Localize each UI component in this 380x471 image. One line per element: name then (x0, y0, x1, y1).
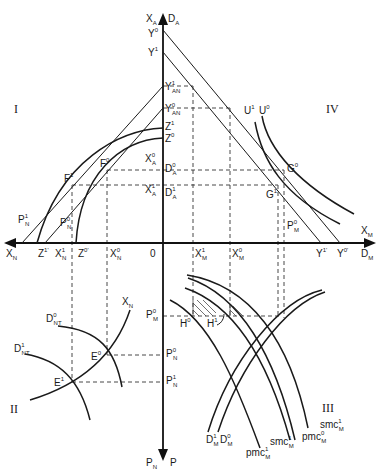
svg-text:G1: G1 (266, 188, 278, 200)
svg-text:P: P (170, 457, 177, 468)
svg-text:F0: F0 (100, 157, 110, 169)
svg-text:Y0': Y0' (337, 247, 348, 259)
svg-text:X0A: X0A (145, 152, 156, 166)
svg-text:IV: IV (326, 102, 339, 116)
svg-text:0: 0 (150, 248, 156, 259)
svg-text:P1N: P1N (18, 213, 29, 227)
svg-text:P1N: P1N (166, 374, 177, 388)
svg-text:Y0: Y0 (148, 27, 159, 39)
quadrant-i-labels: F1 F0 P1N P0N (18, 157, 110, 230)
quadrant-iii-labels: H0 H1 D1M D0M pmc1M smc1M pmc0M smc1M (180, 314, 344, 460)
svg-text:II: II (10, 402, 18, 416)
svg-text:X1N: X1N (55, 247, 66, 261)
svg-text:X1A: X1A (145, 183, 156, 197)
svg-text:U0: U0 (259, 104, 270, 116)
svg-text:P0N: P0N (166, 347, 177, 361)
svg-text:III: III (322, 401, 334, 415)
svg-text:XA: XA (146, 13, 157, 26)
svg-text:XN: XN (6, 248, 17, 261)
four-quadrant-diagram: XA DA Y0 Y1 Y1AN Y0AN Z1 Z0 X0A D0A X1A … (0, 0, 380, 471)
svg-text:smc1M: smc1M (270, 435, 294, 449)
svg-text:X1M: X1M (195, 247, 207, 261)
svg-text:D1NT: D1NT (14, 342, 30, 356)
horizontal-axis-labels: XN Z1' X1N Z0' X0N 0 X1M X0M Y1' Y0' DM (6, 247, 373, 261)
svg-text:DA: DA (168, 13, 179, 26)
svg-text:P0M: P0M (287, 219, 299, 233)
svg-text:I: I (14, 102, 18, 116)
svg-text:D0A: D0A (165, 162, 177, 176)
svg-text:H0: H0 (180, 317, 191, 329)
svg-text:X0N: X0N (110, 247, 121, 261)
svg-text:P0N: P0N (60, 216, 71, 230)
svg-text:Y0AN: Y0AN (165, 102, 180, 116)
dashed-guides (72, 86, 284, 382)
svg-text:Z1: Z1 (165, 120, 175, 132)
svg-text:P0M: P0M (146, 308, 158, 322)
svg-text:DM: DM (361, 248, 373, 261)
svg-text:X0M: X0M (232, 247, 244, 261)
svg-text:pmc0M: pmc0M (302, 430, 326, 444)
svg-text:Z0: Z0 (165, 132, 175, 144)
svg-text:Y1': Y1' (316, 247, 327, 259)
svg-text:XN: XN (122, 296, 133, 309)
quadrant-iv-curves (163, 30, 354, 243)
svg-text:D0M: D0M (220, 433, 233, 447)
quadrant-numerals: I II III IV (10, 102, 339, 416)
quadrant-ii-curves (25, 310, 130, 420)
svg-text:F1: F1 (64, 172, 74, 184)
svg-text:Y1AN: Y1AN (165, 80, 180, 94)
svg-text:Z1': Z1' (38, 247, 49, 259)
svg-text:smc1M: smc1M (320, 418, 344, 432)
svg-text:pmc1M: pmc1M (246, 446, 270, 460)
quadrant-iii-curves (170, 275, 325, 448)
svg-text:Z0': Z0' (78, 247, 89, 259)
svg-text:U1: U1 (244, 104, 255, 116)
svg-text:D1A: D1A (165, 186, 177, 200)
svg-text:PN: PN (146, 457, 157, 470)
svg-text:G0: G0 (287, 162, 299, 174)
hatched-area (193, 300, 243, 316)
svg-text:H1: H1 (207, 317, 218, 329)
axes (4, 13, 376, 461)
svg-text:Y1: Y1 (148, 46, 159, 58)
quadrant-i-curves (22, 86, 163, 243)
svg-text:XM: XM (361, 225, 373, 238)
svg-text:D0NT: D0NT (46, 312, 62, 326)
svg-text:D1M: D1M (206, 433, 219, 447)
